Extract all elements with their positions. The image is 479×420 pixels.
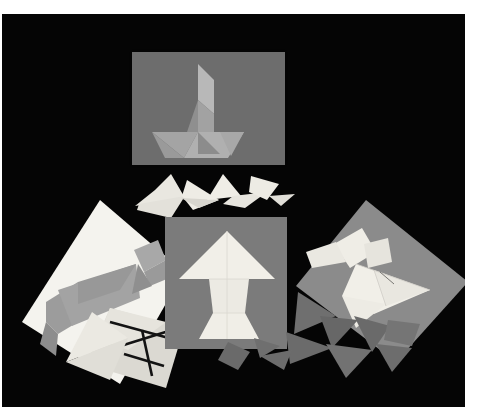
- sailboat-card: sailboat: [132, 52, 285, 165]
- lower-right-scattered-pieces: [280, 286, 425, 386]
- sailboat-figure: [132, 52, 285, 165]
- photo-image-area: sailboat: [2, 14, 465, 407]
- left-lower-pieces: [58, 310, 158, 384]
- arrow-card: arrow-tree: [165, 217, 287, 349]
- photo-print: sailboat: [0, 0, 479, 420]
- arrow-figure: [165, 217, 287, 349]
- lower-center-scattered-pieces: [188, 336, 298, 388]
